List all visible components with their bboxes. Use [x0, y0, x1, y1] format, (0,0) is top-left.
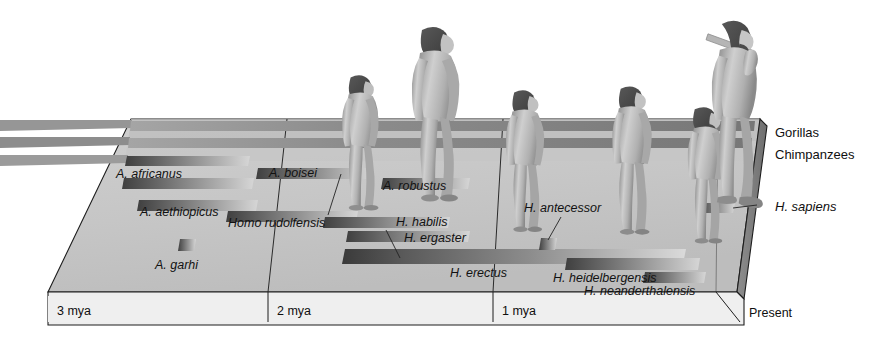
figure-6-foot-left [717, 196, 737, 204]
axis-label-3mya: 3 mya [57, 304, 91, 318]
figure-4-foot-right [635, 229, 650, 235]
figure-4-foot-left [620, 229, 635, 235]
axis-label-2mya: 2 mya [277, 304, 311, 318]
bar-h-heidelbergensis [565, 258, 700, 270]
label-a-garhi: A. garhi [154, 258, 199, 272]
label-homo-rudolfensis: Homo rudolfensis [228, 216, 325, 230]
offplane-lineage-lines [0, 120, 132, 166]
label-h-antecessor: H. antecessor [524, 201, 602, 215]
label-h-neanderthalensis: H. neanderthalensis [584, 284, 695, 298]
label-h-erectus: H. erectus [450, 266, 507, 280]
label-h-sapiens: H. sapiens [775, 199, 837, 214]
platform-front-axis-band-inner [48, 296, 740, 322]
figure-5-foot-right [709, 238, 723, 243]
figure-3-foot-left [513, 227, 527, 232]
label-h-habilis: H. habilis [396, 215, 447, 229]
axis-label-1mya: 1 mya [502, 304, 536, 318]
side-labels: Gorillas Chimpanzees H. sapiens [775, 125, 855, 214]
label-h-ergaster: H. ergaster [404, 231, 467, 245]
label-a-boisei: A. boisei [268, 166, 318, 180]
label-a-aethiopicus: A. aethiopicus [139, 205, 219, 219]
label-a-africanus: A. africanus [115, 167, 182, 181]
bar-a-garhi [178, 239, 196, 251]
figure-canvas: A. africanus A. boisei A. robustus A. ae… [0, 0, 883, 342]
chimpanzee-line-extension [0, 137, 130, 148]
figure-2-foot-left [421, 195, 439, 202]
gorilla-line-extension [0, 120, 132, 131]
figure-3-foot-right [528, 227, 542, 232]
label-a-robustus: A. robustus [382, 179, 446, 193]
bar-a-africanus [125, 156, 250, 166]
label-chimpanzees: Chimpanzees [775, 147, 855, 162]
figure-2-foot-right [440, 195, 458, 202]
figure-1-foot-left [349, 205, 364, 211]
figure-5-foot-left [695, 238, 709, 243]
axis-label-present: Present [749, 306, 793, 320]
figure-1-foot-right [364, 205, 379, 211]
hominid-timeline-diagram: A. africanus A. boisei A. robustus A. ae… [0, 0, 883, 342]
label-gorillas: Gorillas [775, 125, 820, 140]
bar-chimpanzees [128, 138, 752, 148]
label-h-heidelbergensis: H. heidelbergensis [553, 271, 657, 285]
